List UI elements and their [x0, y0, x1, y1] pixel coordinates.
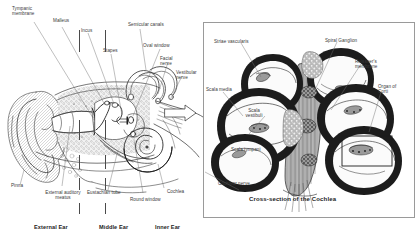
label-reissners-membrane: Reissner's membrane: [355, 59, 389, 70]
ear-anatomy-illustration: [0, 0, 205, 241]
label-round-window: Round window: [130, 197, 172, 202]
label-facial-nerve: Facial nerve: [160, 56, 184, 67]
label-tympanic-membrane: Tympanic membrane: [12, 6, 56, 17]
label-cochlea: Cochlea: [167, 189, 193, 194]
divider-tick-external-end: [79, 203, 80, 214]
label-eustachian-tube: Eustachian tube: [87, 190, 135, 195]
figure-canvas: Tympanic membrane Malleus Incus Stapes S…: [0, 0, 418, 241]
divider-tick-external-low: [79, 155, 80, 169]
label-striae-vascularis: Striae vascularis: [214, 39, 262, 44]
section-external-ear: External Ear: [34, 224, 68, 230]
cross-section-caption: Cross-section of the Cochlea: [249, 196, 336, 202]
cochlea-cross-section-illustration: [203, 22, 415, 218]
label-scala-media: Scala media: [206, 87, 240, 92]
label-vestibular-nerve: Vestibular nerve: [176, 70, 205, 81]
label-organ-of-corti: Organ of Corti: [378, 84, 406, 95]
label-stapes: Stapes: [103, 48, 129, 53]
divider-tick-external-bot: [79, 178, 80, 190]
label-scala-tympani: Scala tympani: [231, 147, 269, 152]
section-inner-ear: Inner Ear: [155, 224, 180, 230]
divider-tick-middle-end: [105, 203, 106, 214]
divider-tick-middle-bot: [105, 178, 106, 190]
divider-tick-external-mid: [79, 120, 80, 140]
label-external-auditory-meatus: External auditory meatus: [32, 190, 94, 201]
label-semicircular-canals: Semicular canals: [128, 22, 176, 27]
label-malleus: Malleus: [53, 18, 83, 23]
divider-tick-middle-low: [105, 155, 106, 169]
label-scala-vestibuli: Scala vestibuli: [240, 108, 268, 119]
divider-tick-middle-mid: [105, 120, 106, 140]
label-cochlear-nerve: Cochlear nerve: [218, 181, 260, 186]
divider-tick-external-top: [79, 30, 80, 52]
label-pinna: Pinna: [11, 183, 33, 188]
label-incus: Incus: [81, 28, 105, 33]
divider-tick-middle-top: [105, 30, 106, 52]
label-oval-window: Oval window: [143, 43, 181, 48]
label-spiral-ganglion: Spiral Ganglion: [325, 38, 371, 43]
section-middle-ear: Middle Ear: [99, 224, 128, 230]
